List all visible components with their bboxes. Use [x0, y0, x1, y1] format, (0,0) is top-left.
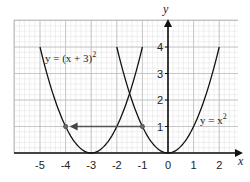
curve-label-shifted: y = (x + 3)2 — [45, 50, 96, 65]
svg-text:-5: -5 — [35, 159, 45, 171]
y-axis-label: y — [162, 2, 169, 16]
curve-label-base: y = x2 — [200, 112, 227, 126]
svg-text:4: 4 — [157, 41, 163, 53]
svg-text:-3: -3 — [86, 159, 96, 171]
svg-text:-2: -2 — [112, 159, 122, 171]
svg-text:2: 2 — [157, 94, 163, 106]
svg-text:-1: -1 — [138, 159, 148, 171]
svg-text:-4: -4 — [61, 159, 71, 171]
svg-text:2: 2 — [216, 159, 222, 171]
svg-text:1: 1 — [157, 121, 163, 133]
svg-text:3: 3 — [157, 68, 163, 80]
graph: -5-4-3-2-10121234 y x y = (x + 3)2 y = x… — [0, 0, 250, 182]
x-axis-label: x — [237, 154, 244, 168]
svg-text:1: 1 — [191, 159, 197, 171]
grid — [14, 20, 238, 153]
svg-text:0: 0 — [165, 159, 171, 171]
